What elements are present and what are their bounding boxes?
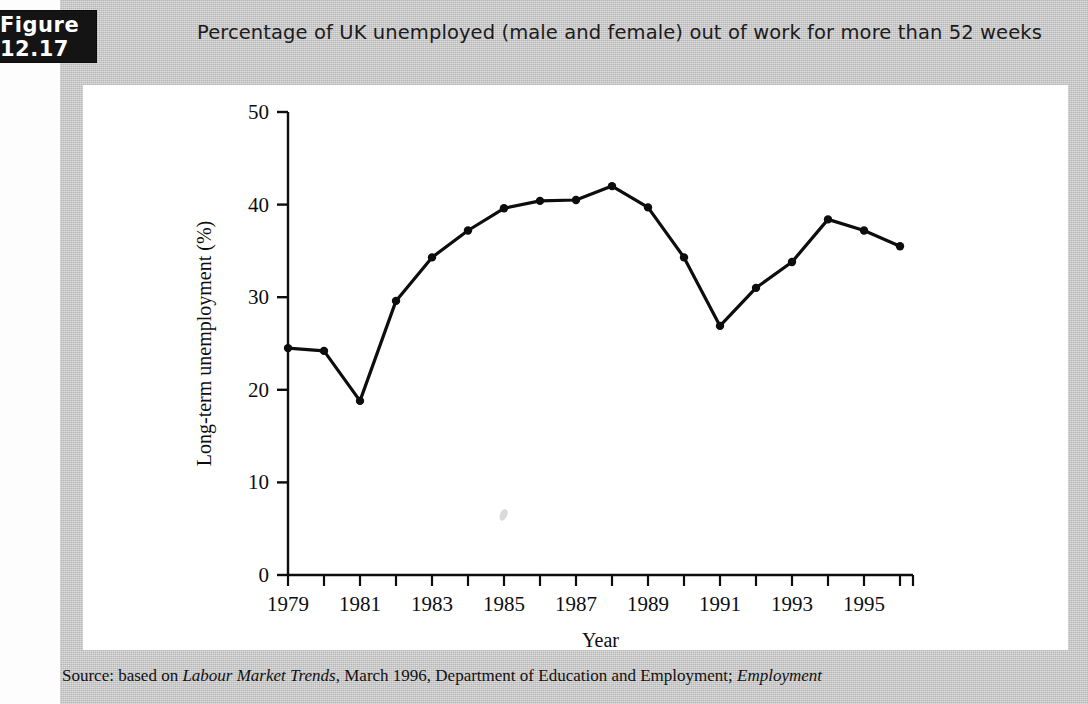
y-axis-tick-label: 0 <box>259 563 270 587</box>
figure-page: Figure 12.17 Percentage of UK unemployed… <box>0 0 1088 704</box>
y-axis-tick-label: 20 <box>248 378 269 402</box>
data-point-marker <box>644 203 652 211</box>
data-point-marker <box>680 253 688 261</box>
data-point-marker <box>752 284 760 292</box>
y-axis: 01020304050 <box>248 100 288 587</box>
x-axis-title: Year <box>582 629 619 650</box>
y-axis-tick-label: 50 <box>248 100 269 124</box>
x-axis-tick-label: 1989 <box>627 592 669 616</box>
x-axis: 197919811983198519871989199119931995 <box>267 575 913 616</box>
x-axis-tick-label: 1995 <box>843 592 885 616</box>
data-point-marker <box>572 196 580 204</box>
source-middle: , March 1996, Department of Education an… <box>336 666 737 685</box>
x-axis-tick-label: 1981 <box>339 592 381 616</box>
source-note: Source: based on Labour Market Trends, M… <box>62 666 822 686</box>
line-chart: 01020304050 1979198119831985198719891991… <box>83 85 1068 650</box>
source-prefix: Source: based on <box>62 666 182 685</box>
x-axis-tick-label: 1993 <box>771 592 813 616</box>
data-point-marker <box>356 397 364 405</box>
figure-number-badge: Figure 12.17 <box>0 11 96 62</box>
data-point-marker <box>320 347 328 355</box>
data-point-marker <box>788 258 796 266</box>
x-axis-tick-label: 1985 <box>483 592 525 616</box>
y-axis-title: Long-term unemployment (%) <box>193 221 216 467</box>
data-point-marker <box>896 242 904 250</box>
series-polyline <box>288 186 900 401</box>
chart-card: 01020304050 1979198119831985198719891991… <box>83 85 1068 650</box>
data-point-marker <box>392 297 400 305</box>
data-point-marker <box>536 197 544 205</box>
data-point-marker <box>716 322 724 330</box>
y-axis-tick-label: 10 <box>248 470 269 494</box>
y-axis-tick-label: 30 <box>248 285 269 309</box>
source-italic-publication: Labour Market Trends <box>182 666 335 685</box>
data-point-marker <box>464 226 472 234</box>
figure-caption: Percentage of UK unemployed (male and fe… <box>197 21 1042 44</box>
data-point-marker <box>860 226 868 234</box>
data-point-marker <box>608 182 616 190</box>
x-axis-tick-label: 1983 <box>411 592 453 616</box>
data-point-marker <box>428 253 436 261</box>
x-axis-tick-label: 1987 <box>555 592 597 616</box>
page-margin-strip <box>0 0 60 704</box>
data-point-marker <box>284 344 292 352</box>
y-axis-tick-label: 40 <box>248 193 269 217</box>
x-axis-tick-label: 1991 <box>699 592 741 616</box>
source-italic-publication-2: Employment <box>737 666 822 685</box>
data-point-marker <box>500 204 508 212</box>
data-point-marker <box>824 215 832 223</box>
data-series-line <box>284 182 904 405</box>
x-axis-tick-label: 1979 <box>267 592 309 616</box>
